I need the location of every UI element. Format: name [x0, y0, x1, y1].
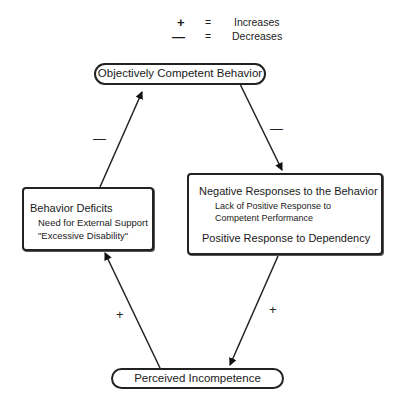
node-sub-line-1: Lack of Positive Response to — [215, 201, 331, 211]
node-title: Behavior Deficits — [30, 202, 113, 214]
node-sub-line-2: "Excessive Disability" — [38, 230, 128, 241]
node-label: Perceived Incompetence — [134, 372, 261, 384]
node-line-2: Positive Response to Dependency — [202, 232, 370, 244]
node-perceived-incompetence: Perceived Incompetence — [111, 368, 284, 389]
node-label: Objectively Competent Behavior — [98, 67, 262, 79]
edge-sign-top-right: — — [270, 121, 283, 136]
node-sub-line-2: Competent Performance — [215, 213, 313, 223]
node-title: Negative Responses to the Behavior — [199, 185, 378, 197]
edge-sign-bottom-left: + — [116, 307, 124, 322]
arrow-bottom-to-left — [105, 253, 160, 368]
node-negative-responses: Negative Responses to the Behavior Lack … — [187, 173, 383, 255]
node-sub-line-1: Need for External Support — [38, 217, 148, 228]
node-behavior-deficits: Behavior Deficits Need for External Supp… — [22, 187, 154, 251]
edge-sign-left-top: — — [93, 131, 106, 146]
arrow-left-to-top — [100, 92, 142, 187]
edge-sign-right-bottom: + — [269, 302, 277, 317]
node-objectively-competent-behavior: Objectively Competent Behavior — [94, 63, 266, 85]
